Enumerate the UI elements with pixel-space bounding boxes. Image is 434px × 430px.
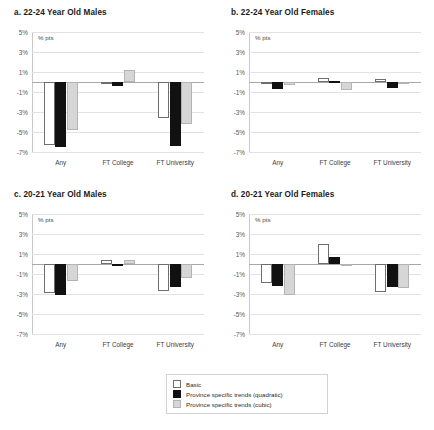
bar [387,82,398,88]
x-axis-tick-label: Any [249,159,306,166]
bar [158,82,169,118]
panel-b-title: b. 22-24 Year Old Females [231,8,334,17]
legend-swatch-cubic [173,400,181,408]
y-axis-tick-label: -7% [234,149,245,156]
bar [284,264,295,295]
bar-group: Any [249,32,306,152]
y-axis-tick-label: -3% [17,291,28,298]
panel-b: b. 22-24 Year Old Females % pts 5%3%1%-1… [217,0,434,182]
bar [261,82,272,84]
bar-group: FT College [89,32,146,152]
y-axis-tick-label: -7% [234,331,245,338]
x-axis-tick-label: FT College [306,341,363,348]
bar [398,264,409,288]
y-axis-tick-label: 1% [236,251,245,258]
gridline [249,334,421,335]
bar [101,260,112,264]
y-axis-tick-label: 1% [19,251,28,258]
panel-a-title: a. 22-24 Year Old Males [14,8,107,17]
bar [170,264,181,287]
bar [44,264,55,293]
bar [158,264,169,291]
y-axis-tick-label: 3% [236,231,245,238]
bar [124,260,135,264]
bar [329,81,340,83]
bar [272,264,283,286]
y-axis-tick-label: 5% [19,29,28,36]
panel-d-plot: 5%3%1%-1%-3%-5%-7%AnyFT CollegeFT Univer… [249,214,421,334]
figure-panel-grid: a. 22-24 Year Old Males % pts 5%3%1%-1%-… [0,0,434,430]
panel-d: d. 20-21 Year Old Females % pts 5%3%1%-1… [217,182,434,364]
y-axis-tick-label: 1% [236,69,245,76]
legend-item-basic: Basic [173,379,321,389]
bar [284,82,295,85]
x-axis-tick-label: FT University [147,159,204,166]
bar [398,82,409,84]
y-axis-tick-label: -1% [234,271,245,278]
bar [67,82,78,130]
y-axis-tick-label: -3% [234,291,245,298]
bar-group: FT University [364,214,421,334]
panel-b-plot: 5%3%1%-1%-3%-5%-7%AnyFT CollegeFT Univer… [249,32,421,152]
x-axis-tick-label: FT College [306,159,363,166]
y-axis-tick-label: -3% [234,109,245,116]
x-axis-tick-label: Any [32,341,89,348]
bar [55,82,66,147]
x-axis-tick-label: Any [249,341,306,348]
y-axis-tick-label: 3% [236,49,245,56]
panel-a: a. 22-24 Year Old Males % pts 5%3%1%-1%-… [0,0,217,182]
bar [44,82,55,145]
bar [112,82,123,86]
bar-group: FT College [89,214,146,334]
x-axis-tick-label: FT University [364,341,421,348]
y-axis-tick-label: 3% [19,231,28,238]
bar-group: FT College [306,32,363,152]
bar [341,264,352,266]
y-axis-tick-label: -7% [17,331,28,338]
y-axis-tick-label: 5% [19,211,28,218]
x-axis-tick-label: FT College [89,341,146,348]
gridline [249,152,421,153]
bar [170,82,181,146]
y-axis-tick-label: -7% [17,149,28,156]
x-axis-tick-label: FT University [147,341,204,348]
bar [272,82,283,89]
bar [375,79,386,83]
bar [55,264,66,295]
y-axis-tick-label: 5% [236,211,245,218]
legend-swatch-quadratic [173,390,181,398]
bar-group: Any [32,214,89,334]
bar-group: FT College [306,214,363,334]
legend-label-quadratic: Province specific trends (quadratic) [186,391,283,398]
legend-label-cubic: Province specific trends (cubic) [186,401,272,408]
bar-group: Any [32,32,89,152]
x-axis-tick-label: FT University [364,159,421,166]
chart-legend: Basic Province specific trends (quadrati… [166,374,328,414]
bar [101,82,112,84]
gridline [32,334,204,335]
panel-d-title: d. 20-21 Year Old Females [231,190,334,199]
y-axis-tick-label: -5% [234,311,245,318]
y-axis-tick-label: 5% [236,29,245,36]
bar [261,264,272,283]
bar [329,257,340,264]
panel-a-plot: 5%3%1%-1%-3%-5%-7%AnyFT CollegeFT Univer… [32,32,204,152]
bar [318,244,329,264]
y-axis-tick-label: -5% [17,129,28,136]
y-axis-tick-label: -1% [234,89,245,96]
bar [67,264,78,281]
legend-swatch-basic [173,380,181,388]
legend-label-basic: Basic [186,381,201,388]
y-axis-tick-label: 3% [19,49,28,56]
bar-group: FT University [364,32,421,152]
x-axis-tick-label: Any [32,159,89,166]
bar [112,264,123,266]
y-axis-tick-label: -1% [17,271,28,278]
y-axis-tick-label: -5% [17,311,28,318]
y-axis-tick-label: -3% [17,109,28,116]
bar [181,82,192,124]
x-axis-tick-label: FT College [89,159,146,166]
bar [341,82,352,90]
legend-item-cubic: Province specific trends (cubic) [173,399,321,409]
bar [181,264,192,278]
